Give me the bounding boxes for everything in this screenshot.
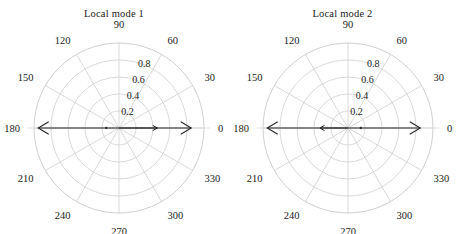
- radial-tick-label-0.8: 0.8: [367, 58, 380, 69]
- angle-tick-label-270: 270: [111, 226, 127, 234]
- angle-tick-label-300: 300: [168, 210, 184, 221]
- polar-svg-mode-2: 03060901201501802102402703003300.20.40.6…: [228, 0, 457, 234]
- radial-tick-label-0.2: 0.2: [121, 106, 134, 117]
- polar-grid-spoke: [274, 86, 348, 129]
- polar-panel-local-mode-2: Local mode 2 030609012015018021024027030…: [228, 0, 457, 234]
- angle-tick-label-150: 150: [247, 72, 263, 83]
- angle-tick-label-210: 210: [18, 173, 34, 184]
- angle-tick-label-90: 90: [343, 19, 354, 30]
- polar-grid-spoke: [306, 128, 349, 202]
- radial-tick-label-0.6: 0.6: [132, 74, 145, 85]
- angle-tick-label-60: 60: [168, 35, 179, 46]
- angle-tick-label-30: 30: [433, 72, 444, 83]
- polar-grid-spoke: [77, 54, 120, 128]
- polar-grid-spoke: [348, 128, 391, 202]
- angle-tick-label-180: 180: [233, 123, 249, 134]
- angle-tick-label-330: 330: [433, 173, 449, 184]
- radial-tick-label-group: 0.20.40.60.8: [350, 58, 379, 117]
- angle-tick-label-0: 0: [218, 123, 223, 134]
- angle-tick-label-90: 90: [114, 19, 125, 30]
- angle-tick-label-30: 30: [204, 72, 215, 83]
- radial-tick-label-0.4: 0.4: [127, 90, 140, 101]
- polar-grid-spoke: [77, 128, 120, 202]
- vector-marker: [105, 127, 107, 129]
- polar-grid-spoke: [274, 128, 348, 171]
- polar-grid-spoke: [119, 128, 162, 202]
- angle-tick-label-120: 120: [55, 35, 71, 46]
- vector-group: [38, 122, 191, 134]
- polar-grid-spoke: [45, 128, 119, 171]
- polar-grid-spoke: [306, 54, 349, 128]
- polar-plot-mode-1: 03060901201501802102402703003300.20.40.6…: [0, 0, 228, 234]
- angle-tick-label-270: 270: [340, 226, 356, 234]
- angle-tick-label-group: 0306090120150180210240270300330: [233, 19, 452, 234]
- vector-group: [267, 122, 420, 134]
- angle-tick-label-330: 330: [204, 173, 220, 184]
- radial-tick-label-0.6: 0.6: [361, 74, 374, 85]
- polar-figure: Local mode 1 030609012015018021024027030…: [0, 0, 457, 234]
- polar-grid-spoke: [119, 128, 193, 171]
- angle-tick-label-210: 210: [247, 173, 263, 184]
- angle-tick-label-240: 240: [284, 210, 300, 221]
- radial-tick-label-0.4: 0.4: [356, 90, 369, 101]
- angle-tick-label-0: 0: [447, 123, 452, 134]
- angle-tick-label-group: 0306090120150180210240270300330: [4, 19, 223, 234]
- angle-tick-label-120: 120: [284, 35, 300, 46]
- polar-svg-mode-1: 03060901201501802102402703003300.20.40.6…: [0, 0, 228, 234]
- polar-grid-spoke: [348, 128, 422, 171]
- angle-tick-label-60: 60: [397, 35, 408, 46]
- polar-plot-mode-2: 03060901201501802102402703003300.20.40.6…: [228, 0, 457, 234]
- radial-tick-label-0.2: 0.2: [350, 106, 363, 117]
- angle-tick-label-240: 240: [55, 210, 71, 221]
- radial-tick-label-0.8: 0.8: [138, 58, 151, 69]
- angle-tick-label-150: 150: [18, 72, 34, 83]
- radial-tick-label-group: 0.20.40.60.8: [121, 58, 150, 117]
- polar-grid-spoke: [45, 86, 119, 129]
- angle-tick-label-300: 300: [397, 210, 413, 221]
- angle-tick-label-180: 180: [4, 123, 20, 134]
- polar-panel-local-mode-1: Local mode 1 030609012015018021024027030…: [0, 0, 228, 234]
